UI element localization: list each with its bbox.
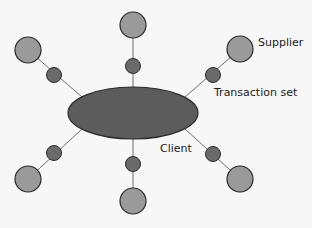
supplier-node-top	[120, 12, 146, 38]
transaction-set-node-top	[126, 59, 141, 74]
client-supplier-network-diagram: Supplier Transaction set Client	[0, 0, 312, 228]
client-node	[68, 87, 198, 139]
transaction-set-node-top-right	[206, 68, 221, 83]
supplier-node-bottom-right	[227, 166, 253, 192]
transaction-set-node-bottom-right	[206, 147, 221, 162]
supplier-node-top-left	[15, 37, 41, 63]
transaction-set-node-bottom-left	[47, 146, 62, 161]
supplier-node-top-right	[227, 36, 253, 62]
supplier-node-bottom-left	[15, 166, 41, 192]
transaction-set-node-top-left	[47, 68, 62, 83]
supplier-label: Supplier	[258, 36, 304, 49]
client-label: Client	[160, 142, 193, 155]
transaction-set-label: Transaction set	[213, 86, 298, 99]
transaction-set-node-bottom	[126, 157, 141, 172]
supplier-node-bottom	[120, 188, 146, 214]
